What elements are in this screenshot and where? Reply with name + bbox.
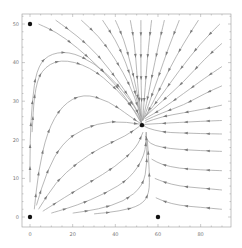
tick-label: 0 bbox=[28, 231, 31, 237]
arrow-icon bbox=[143, 98, 146, 102]
tick-label: 30 bbox=[13, 98, 19, 104]
arrow-icon bbox=[206, 120, 210, 123]
streamlines bbox=[30, 20, 222, 214]
stream-plot: 02040608001020304050 bbox=[0, 0, 242, 248]
arrow-icon bbox=[71, 190, 76, 194]
equilibrium-point bbox=[28, 22, 32, 26]
arrow-icon bbox=[206, 132, 210, 135]
arrow-icon bbox=[90, 179, 95, 183]
arrow-icon bbox=[136, 76, 139, 80]
equilibrium-point bbox=[156, 215, 160, 219]
arrow-icon bbox=[206, 169, 210, 172]
streamline bbox=[145, 105, 222, 122]
arrow-icon bbox=[29, 166, 32, 170]
arrow-icon bbox=[29, 144, 32, 148]
arrow-icon bbox=[206, 207, 210, 210]
arrow-icon bbox=[110, 140, 115, 144]
streamline bbox=[143, 125, 222, 134]
arrow-icon bbox=[95, 96, 100, 100]
arrow-icon bbox=[38, 72, 42, 77]
arrow-icon bbox=[91, 150, 96, 154]
streamline bbox=[32, 61, 142, 132]
axis-ticks: 02040608001020304050 bbox=[13, 14, 231, 237]
tick-label: 20 bbox=[13, 137, 19, 143]
arrow-icon bbox=[90, 124, 95, 128]
streamline bbox=[43, 132, 143, 211]
streamline bbox=[94, 140, 149, 214]
arrow-icon bbox=[145, 194, 149, 199]
arrow-icon bbox=[31, 100, 34, 104]
streamline bbox=[73, 132, 147, 213]
arrow-icon bbox=[39, 190, 43, 195]
tick-label: 20 bbox=[69, 231, 75, 237]
arrow-icon bbox=[144, 76, 147, 80]
arrow-icon bbox=[140, 32, 143, 36]
arrow-icon bbox=[74, 96, 79, 100]
arrow-icon bbox=[127, 69, 131, 74]
tick-label: 50 bbox=[13, 21, 19, 27]
arrow-icon bbox=[206, 150, 210, 153]
arrow-icon bbox=[148, 172, 151, 176]
streamline bbox=[36, 122, 142, 206]
equilibrium-point bbox=[28, 215, 32, 219]
arrow-icon bbox=[82, 56, 87, 60]
arrow-icon bbox=[140, 54, 143, 58]
streamline bbox=[144, 121, 222, 125]
arrow-icon bbox=[162, 122, 166, 125]
arrow-icon bbox=[162, 180, 167, 184]
streamline bbox=[51, 132, 146, 213]
arrow-icon bbox=[172, 31, 176, 36]
arrow-icon bbox=[140, 76, 143, 80]
arrow-icon bbox=[31, 116, 34, 120]
arrow-icon bbox=[63, 207, 68, 211]
arrow-icon bbox=[33, 78, 36, 82]
arrow-icon bbox=[141, 179, 145, 184]
arrow-icon bbox=[112, 120, 116, 123]
tick-label: 80 bbox=[197, 231, 203, 237]
arrow-icon bbox=[145, 158, 148, 162]
arrow-icon bbox=[30, 122, 33, 126]
arrow-icon bbox=[49, 28, 54, 32]
arrow-icon bbox=[162, 199, 167, 203]
tick-label: 10 bbox=[13, 175, 19, 181]
tick-label: 40 bbox=[13, 59, 19, 65]
arrow-icon bbox=[157, 72, 161, 77]
arrow-icon bbox=[83, 200, 88, 204]
arrow-icon bbox=[47, 128, 51, 133]
arrow-icon bbox=[103, 191, 108, 195]
arrow-icon bbox=[177, 48, 181, 53]
arrow-icon bbox=[184, 167, 188, 170]
arrow-icon bbox=[167, 68, 171, 73]
arrow-icon bbox=[184, 121, 188, 124]
arrow-icon bbox=[146, 54, 149, 58]
streamline bbox=[39, 124, 143, 209]
arrow-icon bbox=[134, 54, 137, 58]
arrow-icon bbox=[139, 135, 143, 140]
arrow-icon bbox=[34, 193, 37, 197]
arrow-icon bbox=[119, 31, 123, 36]
arrow-icon bbox=[108, 30, 112, 35]
arrow-icon bbox=[127, 207, 132, 211]
arrow-icon bbox=[155, 53, 158, 57]
arrow-icon bbox=[126, 52, 130, 57]
streamline bbox=[156, 198, 222, 210]
arrow-icon bbox=[207, 90, 212, 94]
arrow-icon bbox=[157, 88, 161, 93]
streamline bbox=[30, 52, 142, 182]
streamline bbox=[144, 20, 198, 119]
streamline bbox=[34, 96, 142, 210]
arrow-icon bbox=[187, 100, 192, 104]
arrow-icon bbox=[76, 62, 81, 66]
arrow-icon bbox=[46, 169, 50, 174]
arrow-icon bbox=[167, 108, 172, 112]
arrow-icon bbox=[189, 30, 193, 35]
streamline bbox=[143, 20, 152, 120]
arrow-icon bbox=[184, 132, 188, 135]
equilibrium-point bbox=[140, 123, 144, 127]
tick-label: 0 bbox=[16, 214, 19, 220]
arrow-icon bbox=[184, 148, 188, 151]
streamline bbox=[39, 24, 143, 124]
tick-label: 60 bbox=[155, 231, 161, 237]
arrow-icon bbox=[140, 98, 143, 102]
streamline bbox=[145, 136, 222, 152]
